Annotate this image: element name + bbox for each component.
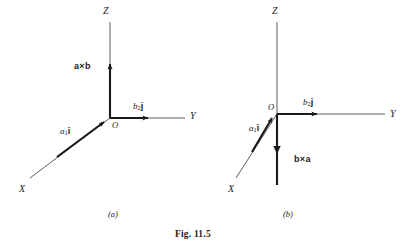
panel-b-origin-label: O [268,103,274,112]
panel-a-origin-label: O [112,121,118,130]
panel-a-a1i-unit: i [68,126,71,136]
panel-b-label-a1i: a1i [249,124,259,134]
panel-b-caption: (b) [283,210,293,219]
panel-b-label-b-cross-a: b×a [294,155,311,164]
panel-b-bca-a: a [305,154,310,164]
panel-b-y-axis-label: Y [390,109,396,119]
panel-a-y-axis-label: Y [190,111,196,121]
panel-b-vector-b-cross-a-arrowhead [273,146,280,154]
panel-a-b2j-unit: j [141,101,144,111]
figure-caption: Fig. 11.5 [175,230,211,240]
panel-a-z-axis-label: Z [103,6,109,16]
panel-b-b2j-unit: j [311,97,314,107]
panel-a-label-a1i: a1i [60,127,70,137]
panel-a-x-axis-label: X [19,184,25,194]
panel-b-label-b2j: b2j [303,98,313,108]
figure-11-5: Z Y X O a×b a1i b2j (a) Z Y X O b×a a1i … [0,0,409,250]
diagram-canvas [0,0,409,250]
panel-a-label-b2j: b2j [133,102,143,112]
panel-b-z-axis-label: Z [272,6,278,16]
panel-a-graphics [30,22,185,178]
panel-a-caption: (a) [108,210,118,219]
panel-a-acb-b: b [85,61,91,71]
panel-a-label-a-cross-b: a×b [74,62,91,71]
panel-b-x-axis-label: X [228,184,234,194]
panel-b-a1i-unit: i [257,123,260,133]
